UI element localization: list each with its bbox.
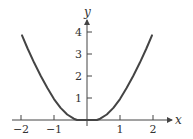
chart: −2−1121234 x y	[0, 0, 193, 139]
axes	[12, 20, 172, 126]
y-axis-label: y	[83, 5, 91, 19]
y-tick-label: 4	[75, 26, 82, 39]
x-tick-label: −1	[46, 123, 62, 136]
y-tick-label: 3	[75, 48, 82, 61]
y-tick-label: 1	[75, 92, 82, 105]
plot-area: −2−1121234 x y	[0, 0, 193, 139]
x-axis-label: x	[175, 113, 182, 127]
x-tick-label: 2	[150, 123, 157, 136]
x-tick-label: −2	[13, 123, 29, 136]
y-tick-label: 2	[75, 70, 82, 83]
x-tick-label: 1	[117, 123, 124, 136]
